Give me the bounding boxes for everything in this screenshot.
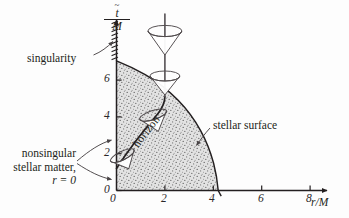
singularity-leader-line <box>94 42 114 56</box>
t-tick-label-2: 2 <box>104 146 110 160</box>
t-tick-label-6: 6 <box>104 72 110 86</box>
r-tick-label-2: 2 <box>161 192 167 206</box>
t-axis-label-denominator: M <box>104 20 130 33</box>
t-axis-label-numerator: ~t <box>104 7 130 20</box>
t-tick-label-4: 4 <box>104 109 110 123</box>
spacetime-diagram-figure: ~t M r/M 0 2 4 6 0 2 4 6 8 singularity s… <box>0 0 349 218</box>
r-tick-label-0: 0 <box>110 192 116 206</box>
stellar-surface-label: stellar surface <box>213 119 277 133</box>
stellar-matter-region <box>117 61 219 191</box>
nonsingular-matter-label: nonsingular stellar matter, r = 0 <box>2 147 76 188</box>
r-tick-label-6: 6 <box>258 192 264 206</box>
r-axis-label: r/M <box>311 196 328 210</box>
t-axis-label: ~t M <box>104 7 130 33</box>
t-tick-label-0: 0 <box>104 183 110 197</box>
r-tick-label-8: 8 <box>306 192 312 206</box>
nonsingular-matter-line-2: stellar matter, <box>2 161 76 175</box>
r-tick-label-4: 4 <box>209 192 215 206</box>
nonsingular-matter-line-1: nonsingular <box>2 147 76 161</box>
singularity-label: singularity <box>27 52 76 66</box>
nonsingular-matter-line-3: r = 0 <box>2 174 76 188</box>
